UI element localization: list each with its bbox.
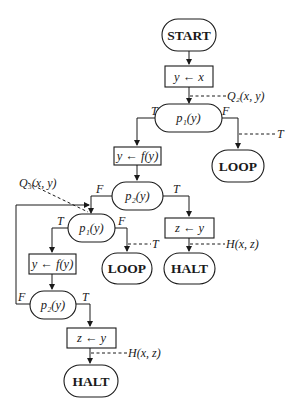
loop-b-label: LOOP xyxy=(108,261,146,276)
assertion-label-halt-b: H(x, z) xyxy=(127,346,161,360)
node-assign-y-x: y ← x xyxy=(165,66,213,87)
branch-label-p2a-false: F xyxy=(95,182,104,196)
assertion-label-q2: Q₂(x, y) xyxy=(227,89,264,103)
assign-y-fy-b-label: y ← f(y) xyxy=(30,257,74,271)
assign-y-fy-a-label: y ← f(y) xyxy=(115,149,159,163)
branch-label-p2b-true: T xyxy=(82,290,90,304)
assign-z-y-b-label: z ← y xyxy=(76,331,107,345)
edge-p1a-false xyxy=(222,118,238,148)
start-label: START xyxy=(167,28,211,43)
edge-p1b-false xyxy=(115,228,127,251)
node-assign-y-fy-a: y ← f(y) xyxy=(114,147,161,165)
node-test-p1-b: p₁(y) xyxy=(68,214,115,242)
node-start: START xyxy=(162,19,216,51)
node-loop-a: LOOP xyxy=(212,150,264,182)
node-test-p2-a: p₂(y) xyxy=(112,182,163,210)
branch-label-p2b-false: F xyxy=(17,290,26,304)
node-loop-b: LOOP xyxy=(102,253,152,284)
node-assign-z-y-b: z ← y xyxy=(67,328,116,348)
assign-z-y-a-label: z ← y xyxy=(174,221,205,235)
branch-label-p2a-true: T xyxy=(173,182,181,196)
halt-a-label: HALT xyxy=(171,261,208,276)
flowchart-diagram: START y ← x p₁(y) LOOP y ← f(y) p₂(y) z … xyxy=(0,0,306,404)
edge-p2a-false xyxy=(91,196,112,213)
edge-p1a-true xyxy=(137,118,155,145)
assertion-label-loop-b: T xyxy=(152,237,160,251)
node-assign-z-y-a: z ← y xyxy=(165,218,214,238)
test-p2-b-label: p₂(y) xyxy=(40,298,65,312)
test-p1-a-label: p₁(y) xyxy=(175,111,200,125)
test-p2-a-label: p₂(y) xyxy=(124,189,149,203)
node-assign-y-fy-b: y ← f(y) xyxy=(29,254,76,274)
edge-p1b-true xyxy=(52,228,68,252)
branch-label-p1a-false: F xyxy=(221,104,230,118)
assertion-label-q3: Q₃(x, y) xyxy=(19,176,56,190)
branch-label-p1b-true: T xyxy=(57,214,65,228)
test-p1-b-label: p₁(y) xyxy=(78,221,103,235)
node-test-p2-b: p₂(y) xyxy=(30,291,76,319)
halt-b-label: HALT xyxy=(72,374,109,389)
node-halt-a: HALT xyxy=(164,253,215,284)
branch-label-p1b-false: F xyxy=(117,214,126,228)
node-test-p1-a: p₁(y) xyxy=(155,104,222,132)
assertion-label-halt-a: H(x, z) xyxy=(225,237,259,251)
assertion-label-loop-a: T xyxy=(277,127,285,141)
node-halt-b: HALT xyxy=(64,365,118,397)
assign-y-x-label: y ← x xyxy=(172,70,204,84)
edge-p2a-true xyxy=(163,196,189,216)
edge-p2b-true xyxy=(76,304,90,326)
loop-a-label: LOOP xyxy=(219,159,257,174)
